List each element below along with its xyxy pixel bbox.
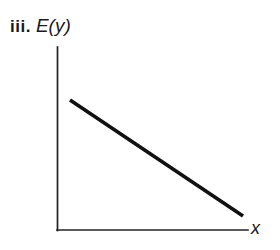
x-axis-label: x <box>251 218 260 239</box>
data-series-line <box>70 100 243 216</box>
figure-container: iii. E(y) x <box>0 0 280 250</box>
plot-area <box>0 0 280 250</box>
